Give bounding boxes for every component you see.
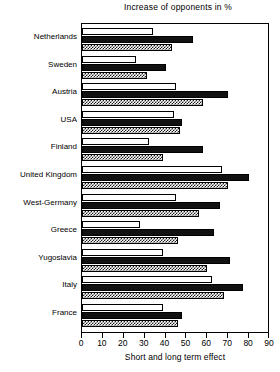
- bar-group: [82, 221, 268, 245]
- bar-black: [82, 284, 243, 291]
- x-tick-label: 80: [243, 338, 252, 348]
- bar-black: [82, 174, 249, 181]
- bar-checker: [82, 265, 207, 272]
- bar-white: [82, 166, 222, 173]
- bar-group: [82, 304, 268, 328]
- bar-white: [82, 111, 174, 118]
- y-axis-label: France: [0, 308, 77, 317]
- bar-black: [82, 202, 220, 209]
- bar-checker: [82, 320, 178, 327]
- x-tick-label: 10: [97, 338, 106, 348]
- x-tick-label: 20: [118, 338, 127, 348]
- x-tick-label: 70: [222, 338, 231, 348]
- y-axis-label: United Kingdom: [0, 170, 77, 179]
- bar-checker: [82, 154, 163, 161]
- bar-checker: [82, 44, 172, 51]
- bar-group: [82, 166, 268, 190]
- bar-group: [82, 249, 268, 273]
- bar-black: [82, 229, 214, 236]
- bar-white: [82, 221, 140, 228]
- bar-white: [82, 304, 163, 311]
- y-axis-label: Greece: [0, 225, 77, 234]
- bar-group: [82, 138, 268, 162]
- y-axis-label: Italy: [0, 280, 77, 289]
- bar-black: [82, 146, 203, 153]
- bar-white: [82, 194, 176, 201]
- y-axis-label: Finland: [0, 142, 77, 151]
- bar-black: [82, 64, 166, 71]
- y-axis-label: Netherlands: [0, 32, 77, 41]
- x-axis-title: Short and long term effect: [81, 352, 269, 362]
- bar-chart: Increase of opponents in % NetherlandsSw…: [0, 0, 280, 372]
- bar-white: [82, 83, 176, 90]
- bar-white: [82, 276, 212, 283]
- x-tick-label: 60: [202, 338, 211, 348]
- x-axis-tick-labels: 0102030405060708090: [0, 338, 280, 350]
- bar-black: [82, 257, 230, 264]
- x-tick-label: 50: [181, 338, 190, 348]
- bar-checker: [82, 182, 228, 189]
- bar-group: [82, 276, 268, 300]
- x-tick-label: 40: [160, 338, 169, 348]
- y-axis-label: USA: [0, 115, 77, 124]
- bar-checker: [82, 127, 180, 134]
- x-tick-label: 90: [264, 338, 273, 348]
- bar-white: [82, 138, 149, 145]
- y-axis-label: Austria: [0, 87, 77, 96]
- x-tick-label: 0: [79, 338, 84, 348]
- y-axis-label: West-Germany: [0, 198, 77, 207]
- bar-group: [82, 56, 268, 80]
- bar-group: [82, 194, 268, 218]
- bar-white: [82, 28, 153, 35]
- bar-black: [82, 119, 182, 126]
- bar-checker: [82, 237, 178, 244]
- bar-group: [82, 111, 268, 135]
- bar-black: [82, 91, 228, 98]
- bar-checker: [82, 99, 203, 106]
- plot-area: [81, 23, 269, 333]
- x-tick-label: 30: [139, 338, 148, 348]
- chart-title: Increase of opponents in %: [81, 2, 275, 12]
- bar-white: [82, 56, 136, 63]
- bar-black: [82, 312, 182, 319]
- bar-checker: [82, 210, 199, 217]
- bar-group: [82, 28, 268, 52]
- bar-checker: [82, 72, 147, 79]
- bar-checker: [82, 292, 224, 299]
- bar-group: [82, 83, 268, 107]
- y-axis-label: Yugoslavia: [0, 253, 77, 262]
- bar-black: [82, 36, 193, 43]
- y-axis-label: Sweden: [0, 60, 77, 69]
- bar-white: [82, 249, 163, 256]
